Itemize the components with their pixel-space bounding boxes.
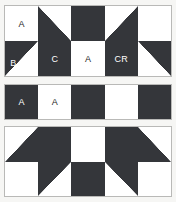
panel-middle-row-unit: AA (4, 84, 172, 120)
quilt-patch (71, 85, 104, 119)
patch-label: A (5, 19, 38, 28)
quilt-patch: A (5, 6, 38, 41)
grid-top: ABCACR (5, 6, 171, 76)
quilt-patch (38, 127, 71, 162)
quilt-patch (105, 6, 138, 41)
patch-label: A (5, 98, 38, 107)
patch-label: A (38, 98, 71, 107)
quilt-patch (38, 6, 71, 41)
quilt-diagram-sheet: ABCACR AA (0, 0, 176, 202)
grid-middle: AA (5, 85, 171, 119)
patch-label: C (38, 54, 71, 63)
patch-label: B (5, 59, 22, 68)
quilt-patch: A (71, 41, 104, 76)
quilt-patch (138, 6, 171, 41)
quilt-patch (5, 162, 38, 197)
quilt-patch: CR (105, 41, 138, 76)
quilt-patch (71, 127, 104, 162)
quilt-patch: B (5, 41, 38, 76)
quilt-patch (38, 162, 71, 197)
quilt-patch (71, 162, 104, 197)
quilt-patch (138, 85, 171, 119)
quilt-patch (138, 41, 171, 76)
quilt-patch: C (38, 41, 71, 76)
quilt-patch (138, 162, 171, 197)
quilt-patch (71, 6, 104, 41)
quilt-patch (105, 162, 138, 197)
patch-label: A (71, 54, 104, 63)
quilt-patch (105, 127, 138, 162)
quilt-patch (138, 127, 171, 162)
grid-bottom (5, 127, 171, 196)
panel-top-row-unit: ABCACR (4, 5, 172, 77)
quilt-patch (105, 85, 138, 119)
quilt-patch (5, 127, 38, 162)
patch-label: CR (105, 54, 138, 63)
panel-bottom-row-unit (4, 126, 172, 197)
quilt-patch: A (38, 85, 71, 119)
quilt-patch: A (5, 85, 38, 119)
